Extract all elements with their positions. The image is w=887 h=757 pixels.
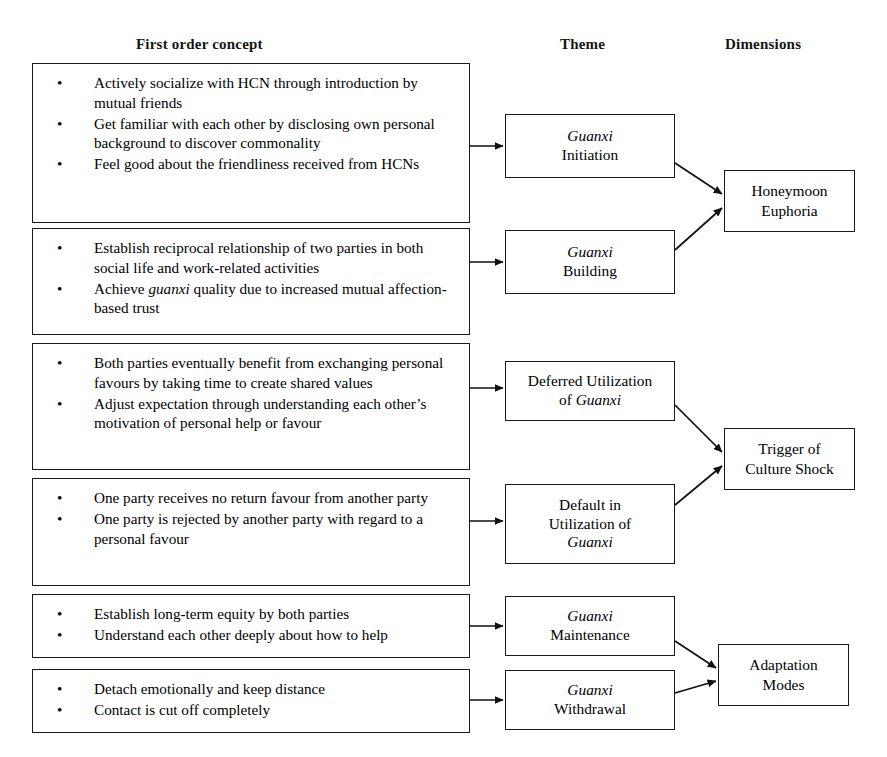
theme-box-deferred-utilization: Deferred Utilization of Guanxi [505,361,675,421]
dimension-box-honeymoon-euphoria: Honeymoon Euphoria [724,170,855,232]
concept-bullet-list: •Establish long-term equity by both part… [43,604,459,645]
bullet-glyph: • [57,238,62,258]
theme-line-2: Utilization of [549,515,632,534]
arrow-theme2-to-honeymoon [675,208,722,250]
arrow-theme1-to-honeymoon [675,163,722,194]
dimension-line-1: Honeymoon [751,181,827,201]
concept-bullet-text: Contact is cut off completely [94,701,270,718]
theme-line-1: Default in [559,496,621,515]
concept-bullet-list: •Both parties eventually benefit from ex… [43,353,459,433]
concept-bullet-item: •Adjust expectation through understandin… [43,394,459,434]
theme-line-2: Initiation [562,146,618,165]
column-header-dimensions: Dimensions [725,36,801,53]
bullet-glyph: • [57,73,62,93]
dimension-line-2: Euphoria [761,201,817,221]
concept-bullet-text: Establish long-term equity by both parti… [94,605,349,622]
concept-bullet-list: •Establish reciprocal relationship of tw… [43,238,459,318]
concept-bullet-text: Feel good about the friendliness receive… [94,155,419,172]
theme-box-guanxi-initiation: Guanxi Initiation [505,114,675,178]
concept-box-guanxi-initiation: •Actively socialize with HCN through int… [32,63,470,223]
concept-bullet-text: Detach emotionally and keep distance [94,680,325,697]
arrow-theme3-to-trigger [675,405,722,452]
concept-bullet-item: •Get familiar with each other by disclos… [43,114,459,154]
concept-bullet-item: •Understand each other deeply about how … [43,625,459,645]
bullet-glyph: • [57,114,62,134]
arrow-theme6-to-adaptation [675,681,716,693]
theme-line-2: Withdrawal [554,700,626,719]
theme-box-default-utilization: Default in Utilization of Guanxi [505,484,675,564]
concept-bullet-list: •Actively socialize with HCN through int… [43,73,459,174]
theme-line-1: Guanxi [567,243,612,262]
theme-box-guanxi-maintenance: Guanxi Maintenance [505,596,675,656]
bullet-glyph: • [57,604,62,624]
theme-line-2: of Guanxi [559,391,621,410]
concept-bullet-item: •Establish long-term equity by both part… [43,604,459,624]
concept-bullet-item: •Feel good about the friendliness receiv… [43,154,459,174]
arrow-theme4-to-trigger [675,466,722,505]
bullet-glyph: • [57,488,62,508]
concept-bullet-list: •One party receives no return favour fro… [43,488,459,548]
concept-bullet-text: One party is rejected by another party w… [94,510,423,547]
concept-box-default-utilization: •One party receives no return favour fro… [32,478,470,586]
theme-line-1: Deferred Utilization [528,372,652,391]
concept-bullet-item: •Detach emotionally and keep distance [43,679,459,699]
concept-bullet-text: Both parties eventually benefit from exc… [94,354,443,391]
concept-box-deferred-utilization: •Both parties eventually benefit from ex… [32,343,470,470]
dimension-box-adaptation-modes: Adaptation Modes [718,644,849,706]
theme-line-2-italic-term: Guanxi [576,391,621,408]
bullet-glyph: • [57,353,62,373]
theme-line-3: Guanxi [567,533,612,552]
dimension-line-2: Culture Shock [745,459,834,479]
concept-bullet-text: Get familiar with each other by disclosi… [94,115,435,152]
dimension-line-1: Trigger of [758,439,820,459]
concept-bullet-list: •Detach emotionally and keep distance •C… [43,679,459,720]
bullet-glyph: • [57,394,62,414]
bullet-glyph: • [57,154,62,174]
concept-bullet-item: •Both parties eventually benefit from ex… [43,353,459,393]
dimension-line-1: Adaptation [749,655,817,675]
concept-box-guanxi-maintenance: •Establish long-term equity by both part… [32,594,470,658]
concept-bullet-item: •One party receives no return favour fro… [43,488,459,508]
concept-box-guanxi-withdrawal: •Detach emotionally and keep distance •C… [32,669,470,733]
concept-bullet-text: Achieve guanxi quality due to increased … [94,280,447,317]
diagram-canvas: First order concept Theme Dimensions [0,0,887,757]
column-header-first-order-concept: First order concept [136,36,263,53]
theme-line-2: Maintenance [550,626,629,645]
theme-line-2: Building [563,262,617,281]
concept-box-guanxi-building: •Establish reciprocal relationship of tw… [32,228,470,335]
concept-bullet-text: Adjust expectation through understanding… [94,395,427,432]
theme-line-1: Guanxi [567,127,612,146]
theme-line-2-prefix: of [559,391,576,408]
theme-box-guanxi-building: Guanxi Building [505,230,675,294]
bullet-glyph: • [57,679,62,699]
bullet-glyph: • [57,509,62,529]
arrow-theme5-to-adaptation [675,641,716,668]
column-header-theme: Theme [560,36,605,53]
concept-bullet-text: Understand each other deeply about how t… [94,626,388,643]
concept-bullet-item: •Contact is cut off completely [43,700,459,720]
concept-bullet-text: Establish reciprocal relationship of two… [94,239,423,276]
concept-bullet-item: •Actively socialize with HCN through int… [43,73,459,113]
dimension-box-trigger-culture-shock: Trigger of Culture Shock [724,428,855,490]
concept-bullet-item: •Establish reciprocal relationship of tw… [43,238,459,278]
concept-bullet-text: Actively socialize with HCN through intr… [94,74,418,111]
theme-line-1: Guanxi [567,607,612,626]
concept-bullet-item: •Achieve guanxi quality due to increased… [43,279,459,319]
concept-bullet-item: •One party is rejected by another party … [43,509,459,549]
theme-box-guanxi-withdrawal: Guanxi Withdrawal [505,670,675,730]
bullet-glyph: • [57,700,62,720]
theme-line-1: Guanxi [567,681,612,700]
concept-bullet-text: One party receives no return favour from… [94,489,428,506]
bullet-glyph: • [57,279,62,299]
bullet-glyph: • [57,625,62,645]
dimension-line-2: Modes [763,675,805,695]
